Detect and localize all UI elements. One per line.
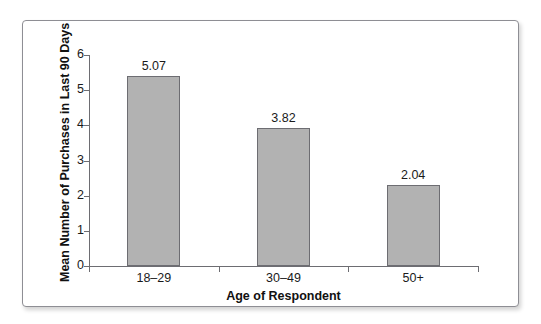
x-tick-mark xyxy=(478,266,479,272)
x-tick-mark xyxy=(219,266,220,272)
bar-value-label: 2.04 xyxy=(383,168,443,182)
x-category-label: 30–49 xyxy=(239,271,329,285)
y-tick-mark xyxy=(84,161,90,162)
x-axis-title: Age of Respondent xyxy=(89,289,478,303)
x-tick-mark xyxy=(89,266,90,272)
x-category-label: 50+ xyxy=(368,271,458,285)
x-tick-mark xyxy=(348,266,349,272)
bar-50+ xyxy=(387,185,440,266)
bar-value-label: 5.07 xyxy=(124,59,184,73)
x-category-label: 18–29 xyxy=(109,271,199,285)
figure-frame: 0123456 5.073.822.04 18–2930–4950+ Mean … xyxy=(22,20,519,307)
chart-plot-area: 0123456 5.073.822.04 18–2930–4950+ Mean … xyxy=(23,21,520,308)
top-cutoff-strip: · · · · · · · xyxy=(0,0,541,12)
top-cutoff-text: · · · · · · · xyxy=(58,0,105,3)
x-axis-line xyxy=(89,266,478,267)
y-tick-mark xyxy=(84,231,90,232)
y-tick-mark xyxy=(84,196,90,197)
bar-value-label: 3.82 xyxy=(254,111,314,125)
y-tick-mark xyxy=(84,90,90,91)
y-tick-mark xyxy=(84,125,90,126)
y-tick-mark xyxy=(84,55,90,56)
y-axis-title: Mean Number of Purchases in Last 90 Days xyxy=(58,44,72,282)
bar-30–49 xyxy=(257,128,310,266)
bar-18–29 xyxy=(127,76,180,266)
